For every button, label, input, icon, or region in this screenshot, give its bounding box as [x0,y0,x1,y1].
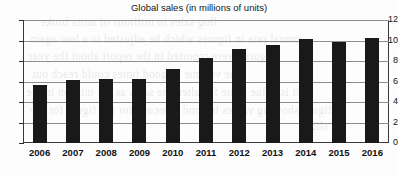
y-tick-mark-0 [19,143,24,144]
y-tick-mark-8 [19,61,24,62]
bar-2015 [332,42,346,143]
x-tick-label-2010: 2010 [156,147,190,158]
chart-title: Global sales (in millions of units) [0,2,398,13]
bar-2012 [232,49,246,143]
y-tick-label-12: 12 [381,14,398,24]
bar-2011 [199,58,213,143]
x-tick-label-2006: 2006 [23,147,57,158]
x-tick-label-2009: 2009 [122,147,156,158]
bar-2007 [66,80,80,143]
y-tick-label-2: 2 [381,117,398,127]
bar-2006 [33,85,47,143]
y-tick-mark-2 [19,123,24,124]
bar-series [23,20,389,143]
bar-2013 [266,45,280,143]
x-tick-label-2012: 2012 [222,147,256,158]
y-tick-mark-10 [19,41,24,42]
y-tick-mark-6 [19,82,24,83]
bar-2016 [365,38,379,143]
x-tick-label-2013: 2013 [256,147,290,158]
bar-2008 [99,79,113,143]
x-tick-label-2014: 2014 [289,147,323,158]
y-tick-label-4: 4 [381,96,398,106]
x-tick-label-2016: 2016 [355,147,389,158]
y-tick-label-0: 0 [381,137,398,147]
y-tick-label-8: 8 [381,55,398,65]
y-tick-label-6: 6 [381,76,398,86]
x-tick-label-2007: 2007 [56,147,90,158]
x-tick-label-2011: 2011 [189,147,223,158]
bar-2010 [166,69,180,143]
y-tick-mark-4 [19,102,24,103]
x-tick-label-2008: 2008 [89,147,123,158]
chart-screenshot: llog sales in millions of units broke an… [0,0,398,175]
x-tick-label-2015: 2015 [322,147,356,158]
y-tick-mark-12 [19,20,24,21]
y-tick-label-10: 10 [381,35,398,45]
bar-2009 [132,79,146,143]
bar-2014 [299,39,313,143]
